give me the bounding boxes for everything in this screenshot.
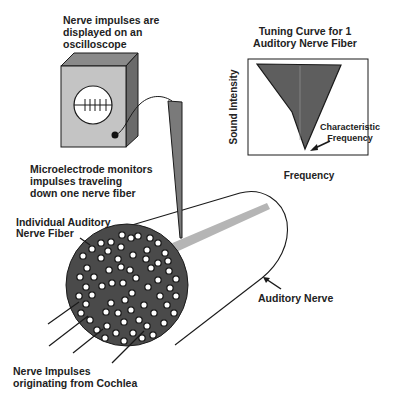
svg-text:Tuning Curve for 1: Tuning Curve for 1 [259, 25, 352, 37]
svg-text:Nerve Fiber: Nerve Fiber [16, 227, 74, 239]
cf-annotation: Characteristic [320, 122, 380, 132]
svg-text:Auditory Nerve Fiber: Auditory Nerve Fiber [253, 37, 357, 49]
svg-text:down one nerve fiber: down one nerve fiber [30, 187, 136, 199]
impulses-origin-caption: Nerve Impulses originating from Cochlea [13, 365, 137, 389]
nerve-cross-section [66, 224, 188, 346]
y-axis-label: Sound Intensity [228, 69, 239, 144]
svg-text:Frequency: Frequency [327, 133, 373, 143]
microelectrode-caption: Microelectrode monitors impulses traveli… [30, 163, 153, 199]
auditory-nerve-caption: Auditory Nerve [258, 277, 333, 304]
oscilloscope-screen [74, 86, 112, 124]
svg-text:displayed on an: displayed on an [63, 26, 142, 38]
tuning-curve-chart: Tuning Curve for 1 Auditory Nerve Fiber … [228, 25, 380, 181]
svg-text:Nerve Impulses: Nerve Impulses [13, 365, 91, 377]
oscilloscope [61, 53, 138, 147]
svg-text:Microelectrode monitors: Microelectrode monitors [30, 163, 153, 175]
svg-text:oscilloscope: oscilloscope [63, 38, 127, 50]
svg-text:impulses traveling: impulses traveling [30, 175, 122, 187]
oscilloscope-caption: Nerve impulses are displayed on an oscil… [63, 14, 159, 50]
svg-text:Auditory Nerve: Auditory Nerve [258, 292, 333, 304]
svg-text:originating from Cochlea: originating from Cochlea [13, 377, 137, 389]
svg-text:Nerve impulses are: Nerve impulses are [63, 14, 159, 26]
x-axis-label: Frequency [284, 170, 335, 181]
auditory-nerve-diagram: Nerve impulses are displayed on an oscil… [0, 0, 397, 397]
arrow-icon [263, 277, 270, 283]
